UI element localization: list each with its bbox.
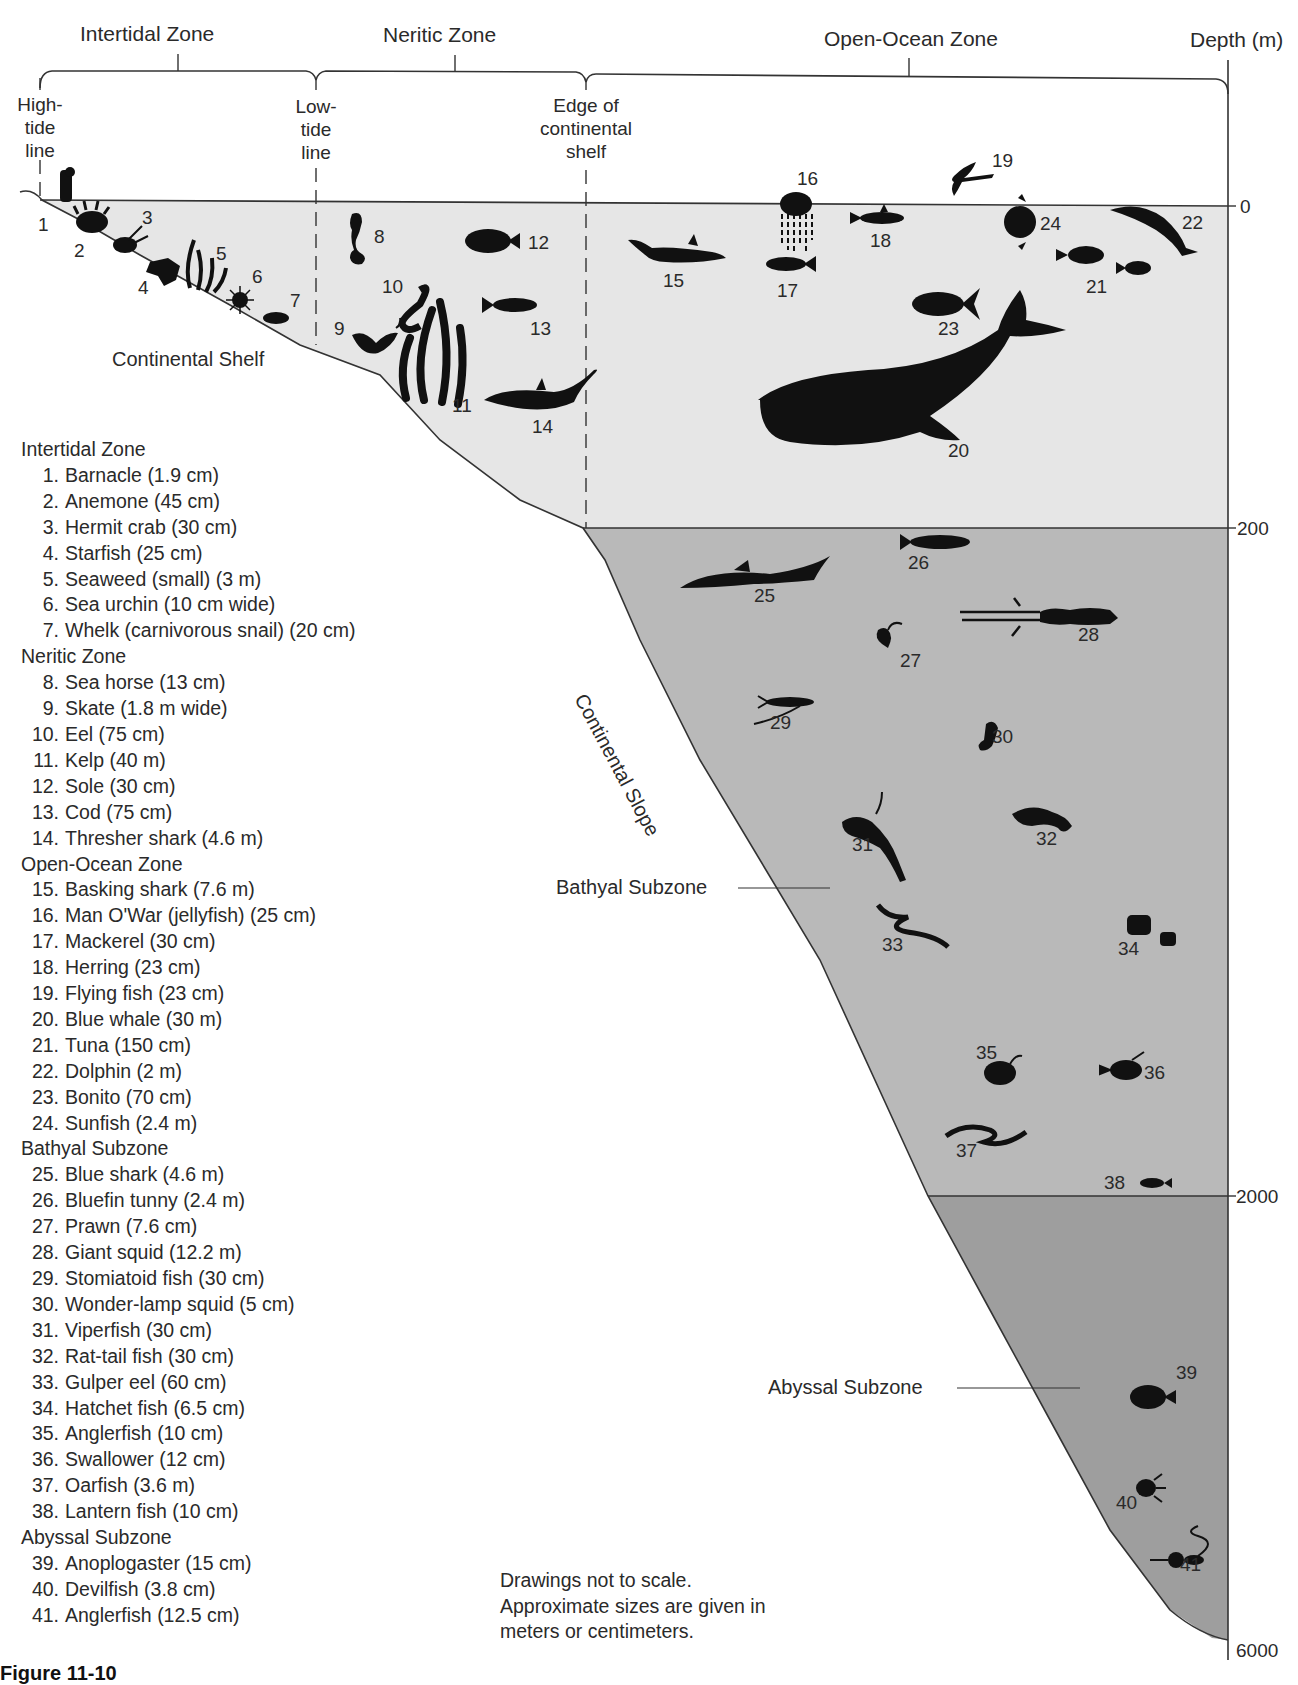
whelk-icon xyxy=(263,312,289,324)
organism-number: 3 xyxy=(142,207,153,229)
legend-item: 6.Sea urchin (10 cm wide) xyxy=(21,592,355,618)
legend-item: 3.Hermit crab (30 cm) xyxy=(21,515,355,541)
legend-item: 36.Swallower (12 cm) xyxy=(21,1447,355,1473)
organism-number: 26 xyxy=(908,552,929,574)
organism-number: 37 xyxy=(956,1140,977,1162)
organism-number: 9 xyxy=(334,318,345,340)
legend-item: 27.Prawn (7.6 cm) xyxy=(21,1214,355,1240)
organism-number: 13 xyxy=(530,318,551,340)
sea-urchin-icon xyxy=(226,286,254,314)
bathyal-water-region xyxy=(583,528,1228,1196)
species-legend: Intertidal Zone 1.Barnacle (1.9 cm) 2.An… xyxy=(21,437,355,1629)
flying-fish-icon xyxy=(952,162,994,196)
organism-number: 8 xyxy=(374,226,385,248)
legend-item: 11.Kelp (40 m) xyxy=(21,748,355,774)
legend-item: 33.Gulper eel (60 cm) xyxy=(21,1370,355,1396)
organism-number: 15 xyxy=(663,270,684,292)
organism-number: 30 xyxy=(992,726,1013,748)
legend-item: 17.Mackerel (30 cm) xyxy=(21,929,355,955)
legend-item: 5.Seaweed (small) (3 m) xyxy=(21,567,355,593)
figure-caption: Figure 11-10 xyxy=(0,1662,117,1685)
organism-number: 5 xyxy=(216,243,227,265)
organism-number: 21 xyxy=(1086,276,1107,298)
zone-label-intertidal: Intertidal Zone xyxy=(80,22,214,46)
organism-number: 16 xyxy=(797,168,818,190)
organism-number: 27 xyxy=(900,650,921,672)
organism-number: 33 xyxy=(882,934,903,956)
legend-heading: Open-Ocean Zone xyxy=(21,852,355,878)
organism-number: 4 xyxy=(138,277,149,299)
scale-note: Drawings not to scale. Approximate sizes… xyxy=(500,1568,766,1645)
organism-number: 6 xyxy=(252,266,263,288)
legend-heading: Neritic Zone xyxy=(21,644,355,670)
legend-item: 9.Skate (1.8 m wide) xyxy=(21,696,355,722)
legend-item: 28.Giant squid (12.2 m) xyxy=(21,1240,355,1266)
organism-number: 19 xyxy=(992,150,1013,172)
zone-label-neritic: Neritic Zone xyxy=(383,23,496,47)
legend-item: 23.Bonito (70 cm) xyxy=(21,1085,355,1111)
bathyal-subzone-label: Bathyal Subzone xyxy=(556,876,707,899)
legend-item: 24.Sunfish (2.4 m) xyxy=(21,1111,355,1137)
organism-number: 40 xyxy=(1116,1492,1137,1514)
legend-item: 34.Hatchet fish (6.5 cm) xyxy=(21,1396,355,1422)
legend-item: 30.Wonder-lamp squid (5 cm) xyxy=(21,1292,355,1318)
continental-shelf-label: Continental Shelf xyxy=(112,348,264,371)
depth-tick-6000: 6000 xyxy=(1236,1640,1278,1662)
zone-bracket xyxy=(40,71,1228,94)
abyssal-subzone-label: Abyssal Subzone xyxy=(768,1376,923,1399)
legend-item: 29.Stomiatoid fish (30 cm) xyxy=(21,1266,355,1292)
legend-item: 39.Anoplogaster (15 cm) xyxy=(21,1551,355,1577)
legend-item: 16.Man O'War (jellyfish) (25 cm) xyxy=(21,903,355,929)
organism-number: 25 xyxy=(754,585,775,607)
legend-item: 25.Blue shark (4.6 m) xyxy=(21,1162,355,1188)
high-tide-label: High- tide line xyxy=(10,93,70,162)
legend-item: 15.Basking shark (7.6 m) xyxy=(21,877,355,903)
legend-item: 1.Barnacle (1.9 cm) xyxy=(21,463,355,489)
legend-item: 38.Lantern fish (10 cm) xyxy=(21,1499,355,1525)
depth-tick-200: 200 xyxy=(1237,518,1269,540)
legend-item: 31.Viperfish (30 cm) xyxy=(21,1318,355,1344)
legend-heading: Intertidal Zone xyxy=(21,437,355,463)
legend-item: 35.Anglerfish (10 cm) xyxy=(21,1421,355,1447)
zone-label-open-ocean: Open-Ocean Zone xyxy=(824,27,998,51)
legend-heading: Bathyal Subzone xyxy=(21,1136,355,1162)
organism-number: 36 xyxy=(1144,1062,1165,1084)
legend-heading: Abyssal Subzone xyxy=(21,1525,355,1551)
organism-number: 17 xyxy=(777,280,798,302)
legend-item: 2.Anemone (45 cm) xyxy=(21,489,355,515)
organism-number: 39 xyxy=(1176,1362,1197,1384)
legend-item: 10.Eel (75 cm) xyxy=(21,722,355,748)
organism-number: 20 xyxy=(948,440,969,462)
organism-number: 18 xyxy=(870,230,891,252)
legend-item: 21.Tuna (150 cm) xyxy=(21,1033,355,1059)
organism-number: 28 xyxy=(1078,624,1099,646)
depth-axis-title: Depth (m) xyxy=(1190,28,1283,52)
organism-number: 34 xyxy=(1118,938,1139,960)
organism-number: 10 xyxy=(382,276,403,298)
organism-number: 14 xyxy=(532,416,553,438)
organism-number: 38 xyxy=(1104,1172,1125,1194)
legend-item: 22.Dolphin (2 m) xyxy=(21,1059,355,1085)
barnacle-icon xyxy=(60,167,75,202)
legend-item: 37.Oarfish (3.6 m) xyxy=(21,1473,355,1499)
legend-item: 4.Starfish (25 cm) xyxy=(21,541,355,567)
organism-number: 12 xyxy=(528,232,549,254)
organism-number: 35 xyxy=(976,1042,997,1064)
organism-number: 11 xyxy=(452,395,472,417)
organism-number: 24 xyxy=(1040,213,1061,235)
organism-number: 2 xyxy=(74,240,85,262)
low-tide-label: Low- tide line xyxy=(286,95,346,164)
organism-number: 29 xyxy=(770,712,791,734)
organism-number: 32 xyxy=(1036,828,1057,850)
legend-item: 8.Sea horse (13 cm) xyxy=(21,670,355,696)
organism-number: 7 xyxy=(290,290,301,312)
depth-tick-0: 0 xyxy=(1240,196,1251,218)
shelf-edge-label: Edge of continental shelf xyxy=(526,94,646,163)
depth-tick-2000: 2000 xyxy=(1236,1186,1278,1208)
legend-item: 20.Blue whale (30 m) xyxy=(21,1007,355,1033)
legend-item: 12.Sole (30 cm) xyxy=(21,774,355,800)
legend-item: 40.Devilfish (3.8 cm) xyxy=(21,1577,355,1603)
organism-number: 31 xyxy=(852,834,873,856)
organism-number: 1 xyxy=(38,214,49,236)
legend-item: 18.Herring (23 cm) xyxy=(21,955,355,981)
